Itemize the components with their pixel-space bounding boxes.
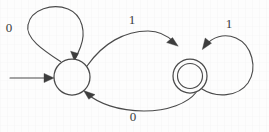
transition-q0-to-q1[interactable] bbox=[87, 31, 178, 66]
state-q1-accepting[interactable] bbox=[173, 59, 207, 93]
transition-q0-to-q1-path bbox=[87, 31, 175, 66]
transition-self-loop-q0[interactable] bbox=[28, 7, 83, 62]
transition-q1-to-q0-path bbox=[88, 93, 197, 112]
state-q0[interactable] bbox=[54, 59, 90, 95]
state-q0-circle bbox=[54, 59, 90, 95]
label-self-loop-q1: 1 bbox=[226, 16, 233, 31]
state-diagram-canvas: 0 1 0 1 bbox=[0, 0, 269, 132]
label-self-loop-q0: 0 bbox=[6, 20, 13, 35]
self-loop-q1-arrowhead bbox=[202, 38, 211, 50]
transition-q0-to-q1-arrowhead bbox=[167, 38, 179, 47]
transition-self-loop-q1[interactable] bbox=[202, 36, 253, 95]
start-arrow bbox=[10, 73, 54, 82]
start-arrow-head bbox=[44, 73, 54, 82]
state-q1-outer-circle bbox=[173, 59, 207, 93]
transition-q1-to-q0[interactable] bbox=[84, 91, 196, 111]
state-diagram-svg: 0 1 0 1 bbox=[0, 0, 269, 132]
label-transition-q1-to-q0: 0 bbox=[130, 109, 137, 124]
label-transition-q0-to-q1: 1 bbox=[129, 12, 136, 27]
